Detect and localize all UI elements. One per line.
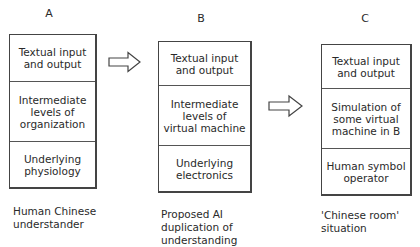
layer-io-c: Textual input and output xyxy=(322,45,410,88)
caption-c: 'Chinese room' situation xyxy=(321,209,399,235)
column-label-c: C xyxy=(355,12,375,25)
caption-b: Proposed AI duplication of understanding xyxy=(161,208,237,247)
layer-operator-c: Human symbol operator xyxy=(322,148,410,195)
right-arrow-icon xyxy=(108,51,142,77)
layer-simulation-c: Simulation of some virtual machine in B xyxy=(322,88,410,148)
right-arrow-icon xyxy=(268,94,304,122)
column-label-b: B xyxy=(191,12,211,25)
layer-stack-a: Textual input and output Intermediate le… xyxy=(9,34,97,189)
layer-stack-c: Textual input and output Simulation of s… xyxy=(321,44,412,196)
caption-a: Human Chinese understander xyxy=(13,205,96,231)
layer-stack-b: Textual input and output Intermediate le… xyxy=(158,41,252,193)
layer-underlying-a: Underlying physiology xyxy=(10,141,95,188)
column-label-a: A xyxy=(39,7,59,20)
layer-intermediate-a: Intermediate levels of organization xyxy=(10,81,95,141)
layer-intermediate-b: Intermediate levels of virtual machine xyxy=(159,85,250,145)
layer-io-a: Textual input and output xyxy=(10,35,95,81)
layer-io-b: Textual input and output xyxy=(159,42,250,85)
layer-underlying-b: Underlying electronics xyxy=(159,145,250,192)
